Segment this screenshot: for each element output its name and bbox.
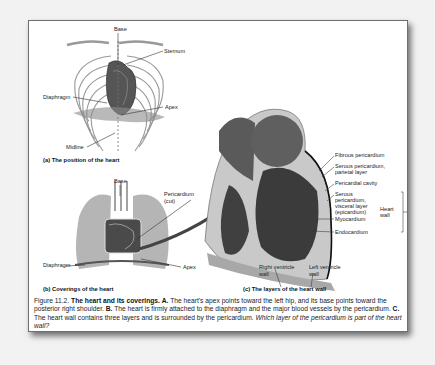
caption-panel-c: (c) The layers of the heart wall	[243, 286, 326, 292]
label-c-myocardium: Myocardium	[335, 216, 365, 222]
figure-title: The heart and its coverings.	[71, 297, 160, 304]
label-a-midline: Midline	[66, 144, 84, 150]
label-c-heart-wall-2: wall	[380, 212, 390, 218]
caption-a-label: A.	[162, 297, 169, 304]
figure-number: Figure 11.2.	[34, 297, 69, 304]
label-a-base: Base	[114, 26, 127, 32]
label-a-apex: Apex	[165, 104, 178, 110]
label-a-diaphragm: Diaphragm	[43, 94, 70, 100]
label-c-right-ventricle-2: wall	[259, 271, 269, 277]
caption-panel-b: (b) Coverings of the heart	[43, 286, 114, 292]
label-c-left-ventricle-2: wall	[309, 271, 319, 277]
caption-panel-a: (a) The position of the heart	[43, 157, 119, 163]
label-b-diaphragm: Diaphragm	[43, 262, 70, 268]
label-b-apex: Apex	[183, 264, 196, 270]
caption-b-text: The heart is firmly attached to the diap…	[114, 305, 391, 312]
label-c-fibrous-pericardium: Fibrous pericardium	[335, 152, 384, 158]
label-c-endocardium: Endocardium	[335, 229, 368, 235]
caption-c-text: The heart wall contains three layers and…	[34, 314, 254, 321]
figure-caption: Figure 11.2. The heart and its coverings…	[34, 297, 402, 331]
label-b-pericardium: Pericardium	[164, 191, 194, 197]
label-c-serous-visceral-4: (epicardium)	[335, 209, 366, 215]
caption-c-label: C.	[393, 305, 400, 312]
caption-b-label: B.	[106, 305, 113, 312]
label-b-base: Base	[114, 178, 127, 184]
label-b-pericardium-cut: (cut)	[164, 198, 175, 204]
label-c-serous-parietal-2: parietal layer	[335, 169, 367, 175]
figure-page: Base Sternum Diaphragm Apex Midline (a) …	[28, 20, 408, 332]
heart-wall-illustration	[29, 21, 407, 331]
label-c-left-ventricle-1: Left ventricle	[309, 264, 341, 270]
label-c-pericardial-cavity: Pericardial cavity	[335, 180, 377, 186]
label-c-right-ventricle-1: Right ventricle	[259, 264, 294, 270]
label-a-sternum: Sternum	[164, 48, 185, 54]
